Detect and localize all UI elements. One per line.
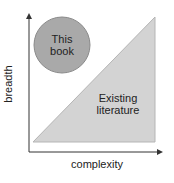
circle-label-line2: book <box>42 45 82 57</box>
circle-label: This book <box>42 33 82 57</box>
triangle-label-line2: literature <box>88 104 148 116</box>
x-axis-label: complexity <box>62 158 132 170</box>
triangle-label-line1: Existing <box>88 92 148 104</box>
y-axis-label: breadth <box>2 59 14 109</box>
triangle-label: Existing literature <box>88 92 148 116</box>
circle-label-line1: This <box>42 33 82 45</box>
